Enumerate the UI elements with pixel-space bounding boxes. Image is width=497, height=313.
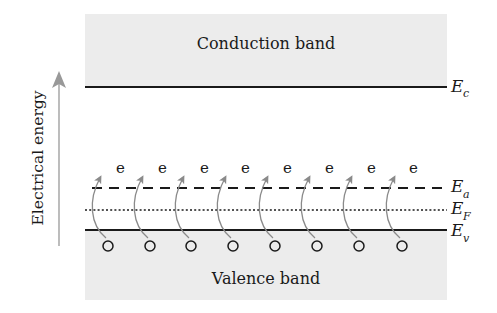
valence-band-region (85, 230, 447, 300)
electron: e (409, 159, 418, 177)
electron: e (116, 159, 125, 177)
valence-band: Valence band (85, 230, 447, 300)
energy-axis: Electrical energy (29, 71, 66, 246)
ev-label: E v (450, 220, 470, 245)
ec-label: E c (450, 76, 469, 100)
ef-label-symbol: E (450, 198, 464, 218)
ev-label-symbol: E (450, 220, 464, 240)
electron: e (367, 159, 376, 177)
conduction-band-label: Conduction band (197, 34, 336, 53)
ec-label-symbol: E (450, 76, 464, 96)
electron: e (158, 159, 167, 177)
conduction-band: Conduction band (85, 14, 447, 87)
ev-label-subscript: v (463, 232, 470, 245)
ec-label-subscript: c (463, 87, 469, 100)
electron: e (283, 159, 292, 177)
energy-axis-label: Electrical energy (29, 90, 47, 225)
electron: e (241, 159, 250, 177)
band-diagram: Conduction band Valence band E c E a E F… (0, 0, 497, 313)
electron: e (200, 159, 209, 177)
valence-band-label: Valence band (211, 269, 320, 288)
electron: e (325, 159, 334, 177)
ea-label-subscript: a (463, 188, 470, 201)
ea-label-symbol: E (450, 176, 464, 196)
